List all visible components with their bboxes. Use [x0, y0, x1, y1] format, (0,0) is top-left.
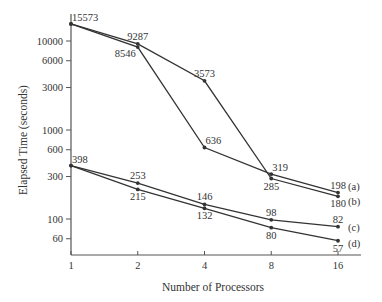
data-value-label: 319: [272, 162, 288, 173]
y-tick-label: 100: [47, 214, 63, 225]
y-tick-label: 60: [53, 233, 64, 244]
data-point: [203, 79, 207, 83]
data-value-label: 198: [330, 180, 346, 191]
data-point: [136, 181, 140, 185]
data-value-label: 636: [206, 135, 222, 146]
data-value-label: 57: [333, 243, 344, 254]
data-value-label: 8546: [115, 48, 136, 59]
series-label: (a): [348, 181, 360, 193]
y-tick-label: 3000: [42, 82, 63, 93]
y-tick-label: 600: [47, 144, 63, 155]
y-tick-label: 1000: [42, 125, 63, 136]
chart-svg: 6010030060010003000600010000124816 15573…: [0, 0, 382, 302]
data-value-label: 146: [197, 191, 213, 202]
data-value-label: 82: [333, 214, 344, 225]
y-tick-label: 300: [47, 171, 63, 182]
data-value-label: 285: [263, 181, 279, 192]
data-value-label: 15573: [72, 12, 98, 23]
data-value-label: 80: [266, 230, 277, 241]
data-value-label: 132: [197, 210, 213, 221]
data-labels: 1557392878546357363631928519818039825321…: [72, 12, 346, 254]
data-value-label: 180: [330, 198, 346, 209]
data-point: [336, 225, 340, 229]
x-tick-label: 16: [333, 260, 344, 271]
data-value-label: 398: [72, 154, 88, 165]
elapsed-time-chart: 6010030060010003000600010000124816 15573…: [0, 0, 382, 302]
y-tick-label: 6000: [42, 55, 63, 66]
y-axis-title: Elapsed Time (seconds): [17, 85, 30, 195]
x-tick-label: 1: [68, 260, 73, 271]
series-line-0: [71, 24, 338, 193]
data-point: [269, 218, 273, 222]
data-point: [203, 202, 207, 206]
x-tick-label: 4: [202, 260, 208, 271]
series-label: (d): [348, 238, 361, 250]
series-labels: (a)(b)(c)(d): [348, 181, 361, 250]
data-value-label: 98: [266, 207, 277, 218]
data-value-label: 9287: [127, 31, 148, 42]
series-label: (c): [348, 222, 360, 234]
data-value-label: 253: [130, 170, 146, 181]
series-label: (b): [348, 196, 361, 208]
data-value-label: 3573: [194, 68, 215, 79]
data-point: [136, 42, 140, 46]
x-tick-label: 8: [269, 260, 274, 271]
x-tick-label: 2: [135, 260, 140, 271]
data-point: [336, 191, 340, 195]
y-tick-label: 10000: [37, 36, 63, 47]
x-axis-title: Number of Processors: [162, 281, 265, 293]
series-line-1: [71, 24, 338, 196]
data-value-label: 215: [130, 191, 146, 202]
